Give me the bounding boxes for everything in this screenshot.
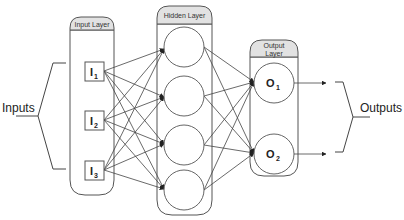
hidden-node-4 [164,170,204,210]
neural-network-diagram: Input Layer Hidden Layer Output Layer [0,0,404,220]
hidden-node-2 [164,76,204,116]
input-node-1: I 1 [85,62,104,81]
svg-text:2: 2 [94,122,98,129]
input-layer-title: Input Layer [74,21,110,29]
svg-text:I: I [90,165,93,177]
svg-text:1: 1 [276,84,280,91]
output-node-1: O 1 [254,63,294,103]
outputs-label: Outputs [360,101,402,115]
outputs-bracket [335,82,370,152]
input-node-3: I 3 [85,161,104,180]
inputs-label: Inputs [2,101,35,115]
input-node-2: I 2 [85,111,104,130]
svg-text:3: 3 [94,172,98,179]
hidden-layer-title: Hidden Layer [164,12,206,20]
hidden-node-3 [164,125,204,165]
svg-text:2: 2 [276,155,280,162]
svg-text:O: O [266,148,275,160]
output-node-2: O 2 [254,134,294,174]
output-layer-title-line2: Layer [265,50,283,58]
svg-text:I: I [90,115,93,127]
svg-text:O: O [266,77,275,89]
svg-text:I: I [90,66,93,78]
hidden-node-1 [164,27,204,67]
inputs-bracket [16,63,66,169]
svg-text:1: 1 [94,73,98,80]
